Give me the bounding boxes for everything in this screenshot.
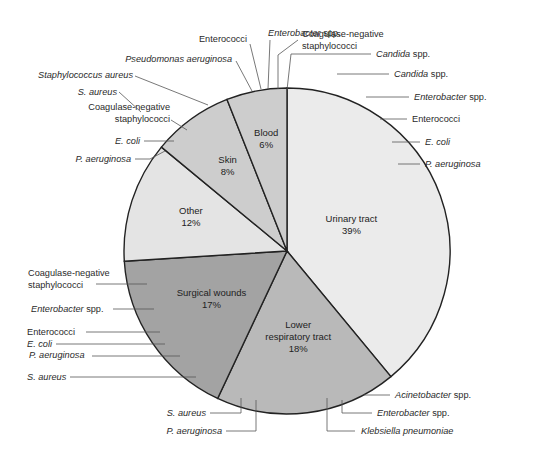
callout-surgical-wounds-enterococci: Enterococci — [27, 327, 160, 337]
callout-label: Enterococci — [412, 114, 460, 124]
leader-line — [287, 54, 371, 90]
callout-label: Klebsiella pneumoniae — [361, 426, 453, 436]
callout-label: S. aureus — [27, 372, 67, 382]
callout-blood-pseudomonas-aeruginosa: Pseudomonas aeruginosa — [125, 54, 252, 91]
leader-line — [268, 40, 270, 89]
leader-line — [236, 61, 252, 91]
callout-label: P. aeruginosa — [425, 159, 481, 169]
callout-label: Enterobacter spp. — [377, 408, 450, 418]
callout-label: Enterobacter spp. — [31, 304, 104, 314]
leader-line — [250, 44, 261, 89]
callout-label: S. aureus — [167, 408, 207, 418]
callout-label: Candida spp. — [376, 49, 430, 59]
pie-chart: Urinary tract39%Lowerrespiratory tract18… — [0, 0, 539, 462]
callout-surgical-wounds-p-aeruginosa: P. aeruginosa — [29, 350, 180, 360]
callout-urinary-tract-enterococci: Enterococci — [380, 114, 460, 124]
callout-blood-staphylococcus-aureus: Staphylococcus aureus — [38, 70, 208, 105]
callout-label: E. coli — [115, 136, 141, 146]
slice-label-skin: Skin8% — [218, 154, 236, 177]
callout-label: E. coli — [425, 137, 451, 147]
callout-surgical-wounds-s-aureus: S. aureus — [27, 372, 196, 382]
callout-label-line2: staphylococci — [302, 41, 357, 51]
callout-label: Enterococci — [199, 34, 247, 44]
callout-label: Coagulase-negative — [28, 268, 110, 278]
callout-label: Enterococci — [27, 327, 75, 337]
slice-label-other: Other12% — [179, 205, 203, 228]
callout-label: Coagulase-negative — [88, 102, 170, 112]
leader-line — [135, 76, 208, 105]
callout-label-line2: staphylococci — [28, 280, 83, 290]
callout-label: Pseudomonas aeruginosa — [125, 54, 232, 64]
callout-label: P. aeruginosa — [75, 154, 131, 164]
callout-label: E. coli — [27, 339, 53, 349]
callout-label: Acinetobacter spp. — [394, 390, 471, 400]
pie-slices — [124, 88, 450, 414]
callout-lower-respiratory-tract-enterobacter-spp: Enterobacter spp. — [342, 400, 450, 418]
callout-label: S. aureus — [78, 87, 118, 97]
callout-label-line2: staphylococci — [115, 114, 170, 124]
callout-surgical-wounds-e-coli: E. coli — [27, 339, 165, 349]
callout-label: P. aeruginosa — [29, 350, 85, 360]
callout-label: P. aeruginosa — [166, 426, 222, 436]
callout-label: Coagulase-negative — [302, 29, 384, 39]
callout-urinary-tract-candida-spp: Candida spp. — [337, 69, 448, 79]
callout-blood-coagulase-negativestaphylococci: Coagulase-negativestaphylococci — [278, 29, 384, 89]
callout-label: Staphylococcus aureus — [38, 70, 133, 80]
callout-label: Candida spp. — [394, 69, 448, 79]
callout-skin-coagulase-negativestaphylococci: Coagulase-negativestaphylococci — [88, 102, 187, 130]
callout-label: Enterobacter spp. — [414, 92, 487, 102]
callout-urinary-tract-enterobacter-spp: Enterobacter spp. — [366, 92, 487, 102]
callout-lower-respiratory-tract-acinetobacter-spp: Acinetobacter spp. — [364, 390, 471, 400]
